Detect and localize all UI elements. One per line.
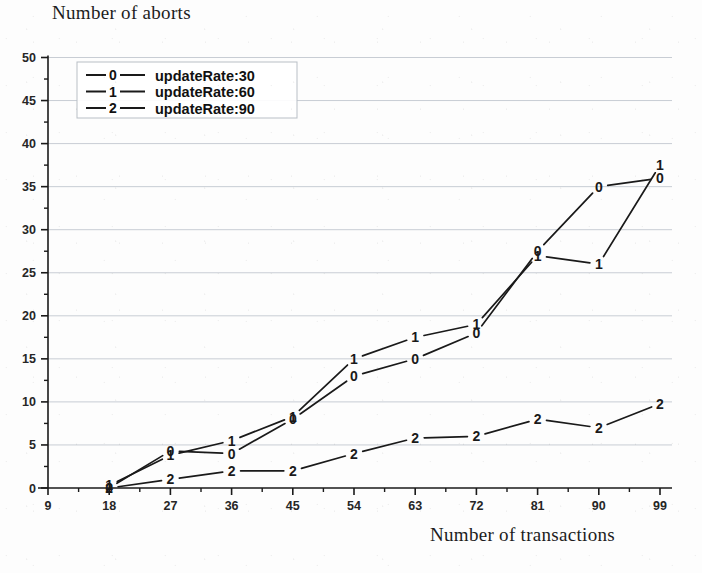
data-point-marker: 2 — [411, 430, 419, 446]
x-tick-label: 9 — [45, 499, 52, 513]
y-tick-label: 10 — [22, 395, 36, 409]
legend-marker-glyph: 0 — [109, 67, 117, 83]
y-tick-label: 35 — [22, 180, 36, 194]
series-segment — [363, 361, 407, 373]
line-chart-plot: 05101520253035404550 9182736455463728190… — [0, 0, 702, 573]
data-point-marker: 0 — [411, 351, 419, 367]
data-point-marker: 1 — [595, 256, 603, 272]
data-point-marker: 2 — [350, 446, 358, 462]
series-segment — [608, 179, 651, 185]
data-point-marker: 2 — [228, 463, 236, 479]
data-point-marker: 1 — [656, 157, 664, 173]
series-segment — [240, 420, 284, 438]
legend-entry-label: updateRate:60 — [155, 84, 255, 100]
series-segment — [363, 440, 407, 451]
series-segment — [300, 381, 346, 414]
x-tick-label: 63 — [408, 499, 422, 513]
series-segment — [117, 459, 162, 481]
data-point-marker: 2 — [534, 411, 542, 427]
series-segment — [485, 422, 529, 434]
y-tick-label: 30 — [22, 223, 36, 237]
y-tick-label: 45 — [22, 94, 36, 108]
x-tick-labels: 918273645546372819099 — [45, 499, 667, 513]
series-2: 2222222222 — [105, 396, 664, 496]
data-point-marker: 2 — [289, 463, 297, 479]
data-point-marker: 2 — [167, 471, 175, 487]
data-point-marker: 1 — [350, 351, 358, 367]
data-point-marker: 2 — [656, 396, 664, 412]
y-tick-label: 5 — [29, 438, 36, 452]
data-point-marker: 1 — [289, 409, 297, 425]
chart-canvas: Number of aborts 05101520253035404550 91… — [0, 0, 702, 573]
axes-group — [38, 56, 672, 496]
data-point-marker: 1 — [534, 248, 542, 264]
legend-item-1[interactable]: 1updateRate:60 — [86, 84, 255, 101]
x-tick-label: 81 — [531, 499, 545, 513]
y-tick-label: 20 — [22, 309, 36, 323]
series-1: 1111111111 — [105, 157, 664, 493]
series-segment — [547, 420, 590, 426]
series-segment — [362, 340, 406, 356]
data-point-marker: 2 — [595, 420, 603, 436]
series-segment — [547, 257, 590, 263]
x-tick-label: 36 — [225, 499, 239, 513]
series-segment — [482, 262, 531, 317]
x-tick-label: 99 — [653, 499, 667, 513]
legend-item-2[interactable]: 2updateRate:90 — [86, 100, 255, 117]
y-tick-labels: 05101520253035404550 — [22, 51, 36, 496]
x-tick-label: 72 — [469, 499, 483, 513]
x-tick-label: 45 — [286, 499, 300, 513]
legend-item-0[interactable]: 0updateRate:30 — [86, 67, 255, 84]
series-segment — [118, 481, 161, 487]
y-tick-label: 50 — [22, 51, 36, 65]
data-point-marker: 2 — [105, 480, 113, 496]
data-point-marker: 0 — [595, 179, 603, 195]
data-point-marker: 1 — [473, 316, 481, 332]
series-segment — [301, 456, 345, 468]
data-point-marker: 1 — [411, 329, 419, 345]
y-tick-label: 15 — [22, 352, 36, 366]
x-tick-label: 54 — [347, 499, 361, 513]
series-segment — [424, 326, 468, 335]
x-tick-label: 18 — [102, 499, 116, 513]
legend-entry-label: updateRate:90 — [155, 101, 255, 117]
legend-marker-glyph: 1 — [109, 84, 117, 100]
series-segment — [299, 365, 347, 410]
y-tick-label: 40 — [22, 137, 36, 151]
series-segment — [424, 437, 467, 438]
series-segment — [544, 193, 593, 245]
series-segment — [423, 337, 468, 356]
x-axis-title: Number of transactions — [430, 524, 615, 546]
series-segment — [179, 472, 222, 478]
x-tick-label: 90 — [592, 499, 606, 513]
y-tick-label: 25 — [22, 266, 36, 280]
data-point-marker: 0 — [350, 368, 358, 384]
legend-entry-label: updateRate:30 — [155, 68, 255, 84]
legend-marker-glyph: 2 — [109, 100, 117, 116]
series-0: 0000000000 — [105, 170, 664, 496]
chart-legend: 0updateRate:301updateRate:602updateRate:… — [77, 62, 297, 118]
y-tick-label: 0 — [29, 482, 36, 496]
x-tick-label: 27 — [163, 499, 177, 513]
data-point-marker: 2 — [473, 428, 481, 444]
data-point-marker: 1 — [228, 433, 236, 449]
data-point-marker: 1 — [167, 447, 175, 463]
series-segment — [607, 407, 651, 425]
